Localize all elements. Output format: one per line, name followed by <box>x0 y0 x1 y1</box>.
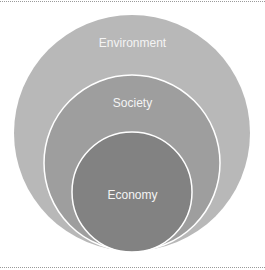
economy-label: Economy <box>0 188 265 202</box>
environment-label: Environment <box>0 36 265 50</box>
bottom-dotted-rule <box>0 267 265 268</box>
society-label: Society <box>0 96 265 110</box>
